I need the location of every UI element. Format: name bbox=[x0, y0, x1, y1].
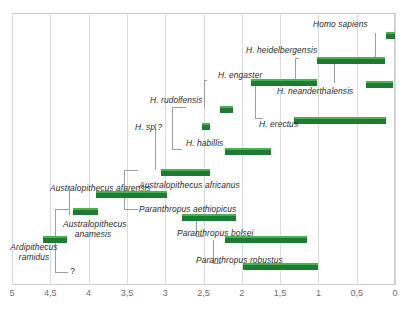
connector-heidel-branch bbox=[295, 58, 299, 59]
connector-hsp-rudolfensis bbox=[172, 107, 186, 108]
gridline-3 bbox=[165, 13, 166, 285]
label-paranthropus-bolsei: Paranthropus bolsei bbox=[177, 228, 253, 238]
gridline-0-5 bbox=[357, 13, 358, 285]
label-australopithecus-afarensis: Australopithecus afarensis bbox=[50, 183, 151, 193]
gridline-4 bbox=[89, 13, 90, 285]
label-homo-sapiens: Homo sapiens bbox=[313, 19, 368, 29]
connector-hsp-node bbox=[172, 107, 173, 150]
label-h-habillis: H. habillis bbox=[186, 138, 223, 148]
bar-h-neanderthalensis bbox=[366, 81, 394, 88]
connector-anamesis-stem bbox=[55, 209, 56, 238]
label-line-1: Australopithecus bbox=[63, 219, 127, 229]
tick-label-3: 3 bbox=[163, 288, 168, 298]
label-h-erectus: H. erectus bbox=[259, 119, 298, 129]
label-paranthropus-robustus: Paranthropus robustus bbox=[196, 255, 283, 265]
bar-h-rudolfensis bbox=[220, 106, 232, 113]
connector-node-aethiopicus bbox=[124, 209, 138, 210]
connector-node-africanus bbox=[124, 170, 138, 171]
bar-australopithecus-anamesis bbox=[73, 208, 98, 215]
label-h-rudolfensis: H. rudolfensis bbox=[150, 95, 203, 105]
connector-engaster-erectus bbox=[255, 84, 256, 119]
gridline-1 bbox=[318, 13, 319, 285]
bar-homo-sapiens bbox=[386, 32, 395, 39]
label-unknown-link: ? bbox=[70, 266, 75, 276]
label-h-engaster: H. engaster bbox=[218, 70, 262, 80]
label-australopithecus-africanus: Australopithecus africanus bbox=[139, 180, 240, 190]
gridline-3-5 bbox=[127, 13, 128, 285]
bar-h-engaster bbox=[251, 79, 317, 86]
gridline-2-5 bbox=[204, 13, 205, 285]
connector-hsp-habillis bbox=[172, 149, 182, 150]
label-line-2: ramidus bbox=[19, 252, 50, 262]
bar-h-sp bbox=[202, 123, 210, 130]
tick-label-1: 1 bbox=[316, 288, 321, 298]
bar-h-heidelbergensis bbox=[317, 57, 385, 64]
label-line-1: Ardipithecus bbox=[10, 242, 57, 252]
tick-label-2: 2 bbox=[239, 288, 244, 298]
bar-paranthropus-aethiopicus bbox=[182, 214, 236, 221]
phylogeny-chart: 54,543,532,521,510,50 Ardipithecus ramid… bbox=[0, 0, 406, 310]
label-paranthropus-aethiopicus: Paranthropus aethiopicus bbox=[139, 204, 236, 214]
label-h-sp-unknown: H. sp.? bbox=[135, 122, 162, 132]
tick-label-0: 0 bbox=[392, 288, 397, 298]
tick-label-4-5: 4,5 bbox=[44, 288, 57, 298]
bar-h-habillis bbox=[225, 148, 271, 155]
tick-label-0-5: 0,5 bbox=[350, 288, 363, 298]
label-h-neanderthalensis: H. neanderthalensis bbox=[277, 86, 353, 96]
tick-label-3-5: 3,5 bbox=[121, 288, 134, 298]
connector-anamesis-branch bbox=[55, 209, 69, 210]
tick-label-5: 5 bbox=[9, 288, 14, 298]
label-line-2: anamesis bbox=[75, 229, 112, 239]
bar-h-erectus bbox=[294, 117, 386, 124]
label-h-heidelbergensis: H. heidelbergensis bbox=[246, 45, 317, 55]
connector-heidel-neander bbox=[334, 62, 335, 83]
label-ardipithecus-ramidus: Ardipithecus ramidus bbox=[8, 243, 60, 263]
gridline-0 bbox=[395, 13, 396, 285]
connector-engaster-branch bbox=[204, 80, 207, 81]
connector-rudolfensis-engaster bbox=[204, 80, 205, 108]
bar-australopithecus-africanus bbox=[161, 169, 209, 176]
tick-label-4: 4 bbox=[86, 288, 91, 298]
tick-label-2-5: 2,5 bbox=[197, 288, 210, 298]
connector-ardipithecus-to-q bbox=[55, 272, 68, 273]
label-australopithecus-anamesis: Australopithecus anamesis bbox=[63, 220, 123, 240]
connector-heidel-sapiens bbox=[375, 33, 376, 60]
tick-label-1-5: 1,5 bbox=[274, 288, 287, 298]
